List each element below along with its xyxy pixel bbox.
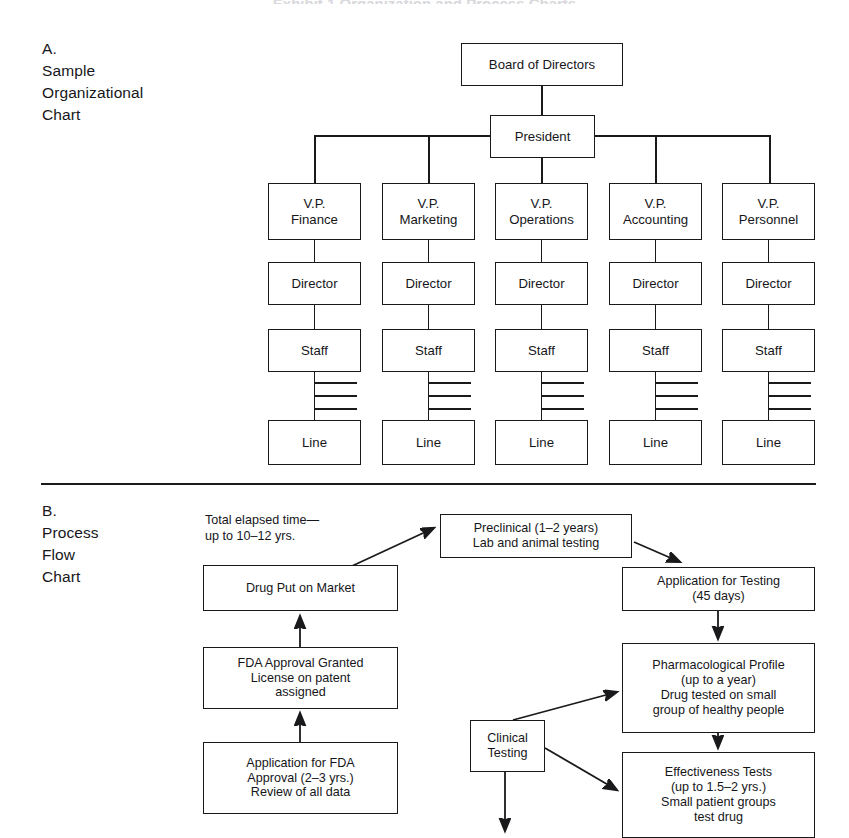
connector-vp-to-director-personnel — [768, 240, 770, 262]
node-staff-operations: Staff — [495, 329, 588, 372]
node-label-line: Approval (2–3 yrs.) — [208, 771, 393, 786]
staff-line-rung-personnel-3 — [769, 408, 812, 410]
annotation-total-elapsed-time: Total elapsed time— up to 10–12 yrs. — [205, 512, 415, 545]
connector-drop-operations — [541, 158, 543, 183]
node-vp-finance: V.P.Finance — [268, 183, 361, 240]
node-staff-finance: Staff — [268, 329, 361, 372]
connector-drop-accounting — [655, 135, 657, 183]
node-vp-marketing: V.P.Marketing — [382, 183, 475, 240]
node-label-line: (up to 1.5–2 yrs.) — [627, 780, 810, 795]
node-label-line: Drug tested on small — [627, 688, 810, 703]
staff-line-rung-finance-3 — [315, 408, 358, 410]
section-divider — [41, 483, 816, 485]
staff-line-rung-marketing-1 — [429, 382, 472, 384]
node-label-line: License on patent — [208, 671, 393, 686]
node-label-line: Director — [614, 276, 697, 292]
connector-drop-personnel — [769, 135, 771, 183]
connector-vp-to-director-operations — [541, 240, 543, 262]
node-director-personnel: Director — [722, 262, 815, 305]
node-label-line: V.P. — [727, 196, 810, 212]
node-label-line: Personnel — [727, 212, 810, 228]
node-effectiveness-tests: Effectiveness Tests(up to 1.5–2 yrs.)Sma… — [622, 752, 815, 838]
connector-board-to-president — [541, 86, 543, 115]
arrow-clinical-to-pharmacological — [513, 692, 617, 720]
node-clinical-testing: ClinicalTesting — [470, 720, 545, 772]
node-board-of-directors: Board of Directors — [461, 43, 623, 86]
staff-line-rung-finance-2 — [315, 395, 358, 397]
staff-line-rung-accounting-1 — [656, 382, 699, 384]
node-label-line: Director — [727, 276, 810, 292]
node-label-line: Application for Testing — [627, 574, 810, 589]
node-staff-marketing: Staff — [382, 329, 475, 372]
connector-president-bus-right — [594, 135, 770, 137]
arrow-preclinical-to-application — [634, 542, 680, 562]
node-label-line: Line — [387, 435, 470, 451]
staff-line-rung-finance-1 — [315, 382, 358, 384]
node-label-line: Operations — [500, 212, 583, 228]
connector-president-bus-left — [314, 135, 491, 137]
staff-line-rung-accounting-3 — [656, 408, 699, 410]
connector-vp-to-director-marketing — [428, 240, 430, 262]
arrow-clinical-to-effectiveness — [545, 748, 617, 790]
node-vp-personnel: V.P.Personnel — [722, 183, 815, 240]
node-director-marketing: Director — [382, 262, 475, 305]
node-line-finance: Line — [268, 420, 361, 465]
node-label-line: V.P. — [614, 196, 697, 212]
node-preclinical: Preclinical (1–2 years)Lab and animal te… — [440, 514, 632, 558]
connector-director-to-staff-marketing — [428, 305, 430, 329]
node-label-line: FDA Approval Granted — [208, 656, 393, 671]
node-drug-put-on-market: Drug Put on Market — [203, 565, 398, 611]
node-label-line: Pharmacological Profile — [627, 658, 810, 673]
node-label-line: Clinical — [475, 731, 540, 746]
node-label-line: Lab and animal testing — [445, 536, 627, 551]
node-label-line: Director — [387, 276, 470, 292]
node-line-operations: Line — [495, 420, 588, 465]
connector-vp-to-director-accounting — [655, 240, 657, 262]
node-staff-accounting: Staff — [609, 329, 702, 372]
node-director-finance: Director — [268, 262, 361, 305]
page-running-head: Exhibit 1 Organization and Process Chart… — [0, 0, 849, 4]
node-label-line: Review of all data — [208, 785, 393, 800]
node-label-line: V.P. — [500, 196, 583, 212]
connector-vp-to-director-finance — [314, 240, 316, 262]
connector-director-to-staff-operations — [541, 305, 543, 329]
node-application-for-testing: Application for Testing(45 days) — [622, 567, 815, 611]
staff-line-rung-operations-1 — [542, 382, 585, 384]
node-label-line: test drug — [627, 810, 810, 825]
node-line-personnel: Line — [722, 420, 815, 465]
staff-line-rung-operations-2 — [542, 395, 585, 397]
node-staff-personnel: Staff — [722, 329, 815, 372]
node-label-line: Staff — [500, 343, 583, 359]
node-label-line: Testing — [475, 746, 540, 761]
node-vp-accounting: V.P.Accounting — [609, 183, 702, 240]
node-label-line: V.P. — [387, 196, 470, 212]
connector-drop-marketing — [428, 135, 430, 183]
node-label-line: Line — [273, 435, 356, 451]
node-label: President — [495, 129, 590, 145]
node-director-accounting: Director — [609, 262, 702, 305]
staff-line-rung-operations-3 — [542, 408, 585, 410]
node-label-line: Marketing — [387, 212, 470, 228]
node-director-operations: Director — [495, 262, 588, 305]
node-president: President — [490, 115, 595, 158]
section-b-caption: B. Process Flow Chart — [42, 500, 222, 588]
node-label-line: Line — [614, 435, 697, 451]
node-label-line: group of healthy people — [627, 703, 810, 718]
staff-line-rung-accounting-2 — [656, 395, 699, 397]
node-label-line: Line — [500, 435, 583, 451]
node-label: Board of Directors — [466, 57, 618, 73]
node-label-line: (45 days) — [627, 589, 810, 604]
node-label-line: Effectiveness Tests — [627, 765, 810, 780]
node-label-line: Staff — [727, 343, 810, 359]
node-application-for-fda-approval: Application for FDAApproval (2–3 yrs.)Re… — [203, 742, 398, 814]
node-label-line: V.P. — [273, 196, 356, 212]
node-pharmacological-profile: Pharmacological Profile(up to a year)Dru… — [622, 643, 815, 733]
staff-line-rung-marketing-3 — [429, 408, 472, 410]
node-label-line: Application for FDA — [208, 756, 393, 771]
node-label-line: assigned — [208, 685, 393, 700]
staff-line-rung-personnel-2 — [769, 395, 812, 397]
node-label-line: Small patient groups — [627, 795, 810, 810]
staff-line-rung-personnel-1 — [769, 382, 812, 384]
node-label-line: Accounting — [614, 212, 697, 228]
section-a-caption: A. Sample Organizational Chart — [42, 38, 242, 126]
